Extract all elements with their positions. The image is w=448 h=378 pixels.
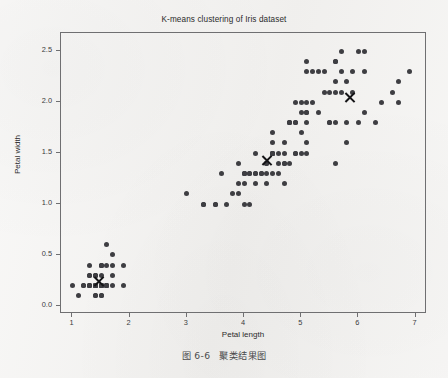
y-axis-label: Petal width (13, 115, 22, 195)
data-point (70, 283, 75, 288)
data-point (356, 49, 361, 54)
x-tick (357, 313, 358, 317)
data-point (379, 100, 384, 105)
data-point (253, 171, 258, 176)
data-point (287, 120, 292, 125)
data-point (242, 171, 247, 176)
x-tick-label: 7 (400, 318, 430, 327)
data-point (333, 161, 338, 166)
figure-caption: 图 6-6聚类结果图 (0, 348, 448, 362)
data-point (99, 263, 104, 268)
x-tick (71, 313, 72, 317)
data-point (93, 293, 98, 298)
data-point (270, 140, 275, 145)
data-point (282, 161, 287, 166)
data-point (264, 181, 269, 186)
data-point (242, 202, 247, 207)
data-point (121, 283, 126, 288)
data-point (99, 293, 104, 298)
data-point (230, 191, 235, 196)
x-tick-label: 2 (114, 318, 144, 327)
data-point (293, 120, 298, 125)
data-point (299, 130, 304, 135)
data-point (327, 90, 332, 95)
data-point (316, 110, 321, 115)
data-point (390, 90, 395, 95)
data-point (276, 151, 281, 156)
data-point (259, 171, 264, 176)
scatter-plot-area (61, 33, 425, 312)
data-point (362, 49, 367, 54)
data-point (110, 263, 115, 268)
data-point (184, 191, 189, 196)
data-point (236, 181, 241, 186)
data-point (299, 110, 304, 115)
data-point (339, 49, 344, 54)
caption-text: 聚类结果图 (219, 350, 266, 361)
data-point (304, 140, 309, 145)
data-point (304, 100, 309, 105)
data-point (110, 283, 115, 288)
data-point (247, 202, 252, 207)
data-point (310, 100, 315, 105)
data-point (276, 171, 281, 176)
x-tick (415, 313, 416, 317)
data-point (253, 181, 258, 186)
centroid-2-marker (261, 154, 274, 167)
data-point (213, 202, 218, 207)
data-point (299, 100, 304, 105)
data-point (236, 161, 241, 166)
data-point (304, 69, 309, 74)
data-point (373, 120, 378, 125)
chart-title: K-means clustering of Iris dataset (0, 15, 448, 24)
data-point (299, 151, 304, 156)
data-point (344, 140, 349, 145)
centroid-1-marker (92, 275, 105, 288)
plot-frame (60, 32, 426, 313)
data-point (396, 79, 401, 84)
data-point (201, 202, 206, 207)
data-point (236, 191, 241, 196)
data-point (287, 161, 292, 166)
data-point (344, 79, 349, 84)
data-point (253, 151, 258, 156)
data-point (333, 79, 338, 84)
x-tick-label: 1 (56, 318, 86, 327)
x-tick (300, 313, 301, 317)
data-point (104, 242, 109, 247)
data-point (121, 263, 126, 268)
data-point (293, 151, 298, 156)
data-point (247, 171, 252, 176)
data-point (333, 120, 338, 125)
x-tick (243, 313, 244, 317)
x-tick (186, 313, 187, 317)
data-point (304, 120, 309, 125)
x-tick-label: 4 (228, 318, 258, 327)
data-point (396, 100, 401, 105)
x-tick (129, 313, 130, 317)
data-point (304, 59, 309, 64)
y-tick-label: 2.0 (24, 96, 52, 105)
data-point (310, 69, 315, 74)
figure-container: K-means clustering of Iris dataset Petal… (0, 0, 448, 378)
data-point (219, 171, 224, 176)
data-point (333, 90, 338, 95)
data-point (304, 151, 309, 156)
data-point (110, 252, 115, 257)
y-tick-label: 1.0 (24, 198, 52, 207)
data-point (76, 293, 81, 298)
x-tick-label: 6 (342, 318, 372, 327)
data-point (322, 69, 327, 74)
data-point (362, 110, 367, 115)
data-point (350, 69, 355, 74)
data-point (282, 151, 287, 156)
x-tick-label: 5 (285, 318, 315, 327)
data-point (87, 263, 92, 268)
data-point (224, 202, 229, 207)
data-point (264, 171, 269, 176)
x-tick-label: 3 (171, 318, 201, 327)
data-point (356, 120, 361, 125)
data-point (270, 130, 275, 135)
x-axis-label: Petal length (60, 330, 426, 339)
data-point (344, 120, 349, 125)
